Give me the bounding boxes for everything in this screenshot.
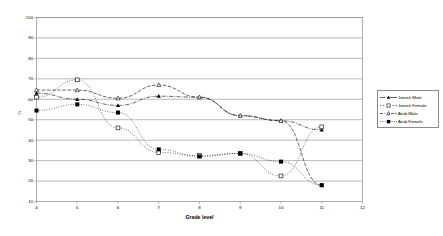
y-tick-label: 20 xyxy=(17,178,33,183)
legend-key-triangle-open-icon xyxy=(380,110,397,117)
y-tick-label: 30 xyxy=(17,158,33,163)
legend-label: Arab Male xyxy=(397,111,418,116)
y-tick-label: 50 xyxy=(17,117,33,122)
data-point-marker xyxy=(320,125,324,129)
x-tick-label: 5 xyxy=(70,205,84,210)
y-tick-label: 100 xyxy=(17,15,33,20)
y-tick-label: 80 xyxy=(17,56,33,61)
legend-label: Jewish Female xyxy=(397,103,427,108)
data-point-marker xyxy=(320,183,324,187)
legend-key-square-open-icon xyxy=(380,102,397,109)
legend-item: Jewish Female xyxy=(380,101,435,109)
data-point-marker xyxy=(116,111,120,115)
x-tick-label: 9 xyxy=(233,205,247,210)
data-point-marker xyxy=(35,95,39,99)
x-tick-label: 7 xyxy=(152,205,166,210)
series-line xyxy=(37,80,322,176)
data-point-marker xyxy=(35,109,39,113)
data-point-marker xyxy=(279,160,283,164)
chart-container: % 102030405060708090100 456789101112 Gra… xyxy=(0,0,443,236)
data-point-marker xyxy=(238,151,242,155)
legend-item: Arab Female xyxy=(380,117,435,125)
data-point-marker xyxy=(279,174,283,178)
series-line xyxy=(37,104,322,185)
series-line xyxy=(37,93,322,130)
data-point-marker xyxy=(157,147,161,151)
legend-key-triangle-filled-icon xyxy=(380,94,397,101)
y-tick-label: 40 xyxy=(17,138,33,143)
data-point-marker xyxy=(75,102,79,106)
legend-key-square-filled-icon xyxy=(380,118,397,125)
legend-label: Arab Female xyxy=(397,119,423,124)
data-series-layer xyxy=(35,78,324,187)
x-tick-label: 6 xyxy=(111,205,125,210)
y-tick-label: 60 xyxy=(17,97,33,102)
data-point-marker xyxy=(116,126,120,130)
series-line xyxy=(37,85,322,185)
y-tick-label: 10 xyxy=(17,199,33,204)
legend: Jewish Male Jewish Female Arab Male xyxy=(377,90,439,128)
legend-label: Jewish Male xyxy=(397,95,422,100)
legend-item: Jewish Male xyxy=(380,93,435,101)
x-tick-label: 4 xyxy=(30,205,44,210)
x-tick-label: 10 xyxy=(274,205,288,210)
x-axis-title: Grade level xyxy=(37,214,363,220)
legend-item: Arab Male xyxy=(380,109,435,117)
plot-frame xyxy=(37,18,363,202)
x-tick-label: 12 xyxy=(356,205,370,210)
data-series xyxy=(35,91,324,132)
data-point-marker xyxy=(75,78,79,82)
x-tick-label: 8 xyxy=(193,205,207,210)
x-tick-label: 11 xyxy=(315,205,329,210)
axis-ticks xyxy=(34,18,362,204)
data-point-marker xyxy=(198,155,202,159)
y-tick-label: 70 xyxy=(17,76,33,81)
y-tick-label: 90 xyxy=(17,35,33,40)
